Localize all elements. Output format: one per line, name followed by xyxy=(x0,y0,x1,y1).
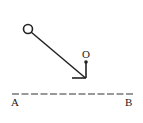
rod xyxy=(31,32,86,78)
diagram-canvas: O A B xyxy=(0,0,143,123)
label-b: B xyxy=(125,96,132,108)
label-a: A xyxy=(11,96,19,108)
pivot-label: O xyxy=(82,48,90,60)
pivot-dot xyxy=(84,60,88,64)
